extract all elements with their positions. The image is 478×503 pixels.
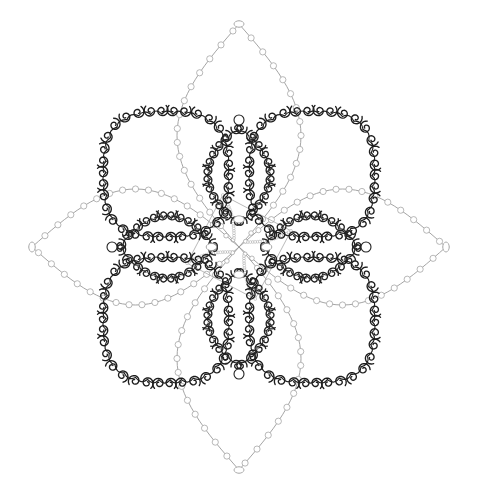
bead-circle bbox=[68, 212, 74, 218]
petal-tip-bead bbox=[234, 467, 244, 473]
bead-circle bbox=[113, 299, 119, 305]
bead-circle bbox=[35, 250, 41, 256]
bead-circle bbox=[174, 139, 180, 145]
bead-circle bbox=[270, 63, 276, 69]
bead-circle bbox=[280, 188, 286, 194]
bead-circle bbox=[314, 297, 320, 303]
bead-circle bbox=[385, 199, 391, 205]
bead-circle bbox=[288, 285, 294, 291]
bead-circle bbox=[232, 227, 235, 230]
bead-circle bbox=[291, 321, 297, 327]
bead-circle bbox=[293, 160, 299, 166]
bead-circle bbox=[411, 217, 417, 223]
bead-circle bbox=[188, 181, 194, 187]
bead-circle bbox=[212, 439, 218, 445]
bead-circle bbox=[423, 227, 429, 233]
bead-circle bbox=[243, 255, 246, 258]
bead-circle bbox=[249, 241, 252, 244]
bead-circle bbox=[280, 77, 286, 83]
bead-circle bbox=[207, 209, 213, 215]
bead-circle bbox=[192, 411, 198, 417]
artwork-canvas bbox=[0, 0, 478, 503]
bead-circle bbox=[270, 202, 276, 208]
bead-circle bbox=[188, 84, 194, 90]
bead-circle bbox=[297, 118, 303, 124]
bead-circle bbox=[275, 293, 281, 299]
inner-petal-base-bead bbox=[206, 243, 216, 250]
bead-circle bbox=[254, 241, 257, 244]
bead-circle bbox=[81, 203, 87, 209]
bead-circle bbox=[184, 203, 190, 209]
bead-circle bbox=[201, 286, 207, 292]
bead-circle bbox=[224, 453, 230, 459]
bead-circle bbox=[398, 207, 404, 213]
bead-circle bbox=[175, 369, 181, 375]
bead-circle bbox=[152, 299, 158, 305]
bead-circle bbox=[339, 302, 345, 308]
bead-circle bbox=[284, 307, 290, 313]
bead-circle bbox=[284, 404, 290, 410]
bead-circle bbox=[352, 301, 358, 307]
petal-tip-bead bbox=[443, 242, 449, 252]
bead-circle bbox=[242, 460, 248, 466]
bead-circle bbox=[254, 446, 260, 452]
canvas-background bbox=[0, 0, 478, 503]
inner-petal-tip-bead bbox=[361, 242, 371, 252]
bead-circle bbox=[359, 188, 365, 194]
bead-circle bbox=[298, 362, 304, 368]
inner-petal-tip-bead bbox=[234, 369, 244, 379]
bead-circle bbox=[230, 28, 236, 34]
bead-circle bbox=[119, 187, 125, 193]
bead-circle bbox=[165, 295, 171, 301]
bead-circle bbox=[275, 276, 281, 282]
bead-circle bbox=[224, 251, 227, 254]
bead-circle bbox=[61, 271, 67, 277]
bead-circle bbox=[42, 233, 48, 239]
bead-circle bbox=[256, 228, 261, 233]
bead-circle bbox=[233, 232, 236, 235]
bead-circle bbox=[177, 153, 183, 159]
bead-circle bbox=[197, 212, 203, 218]
bead-circle bbox=[430, 255, 436, 261]
bead-circle bbox=[217, 261, 222, 266]
inner-petal-base-bead bbox=[261, 243, 271, 250]
bead-circle bbox=[192, 300, 198, 306]
bead-circle bbox=[265, 279, 271, 285]
bead-circle bbox=[275, 418, 281, 424]
bead-circle bbox=[184, 397, 190, 403]
bead-circle bbox=[178, 289, 184, 295]
bead-circle bbox=[132, 186, 138, 192]
petal-tip-bead bbox=[234, 21, 244, 27]
inner-petal-tip-bead bbox=[234, 115, 244, 125]
bead-circle bbox=[219, 251, 222, 254]
bead-circle bbox=[404, 276, 410, 282]
bead-circle bbox=[346, 186, 352, 192]
bead-circle bbox=[265, 432, 271, 438]
bead-circle bbox=[391, 285, 397, 291]
bead-circle bbox=[417, 266, 423, 272]
bead-circle bbox=[181, 167, 187, 173]
bead-circle bbox=[197, 70, 203, 76]
bead-circle bbox=[333, 186, 339, 192]
bead-circle bbox=[291, 390, 297, 396]
bead-circle bbox=[87, 289, 93, 295]
bead-circle bbox=[207, 56, 213, 62]
bead-circle bbox=[281, 207, 287, 213]
bead-circle bbox=[181, 98, 187, 104]
bead-circle bbox=[197, 195, 203, 201]
mandala-svg bbox=[0, 0, 478, 503]
bead-circle bbox=[287, 91, 293, 97]
bead-circle bbox=[259, 240, 262, 243]
bead-circle bbox=[171, 196, 177, 202]
bead-circle bbox=[260, 49, 266, 55]
bead-circle bbox=[307, 193, 313, 199]
bead-circle bbox=[301, 292, 307, 298]
bead-circle bbox=[229, 251, 232, 254]
bead-circle bbox=[55, 222, 61, 228]
bead-circle bbox=[298, 348, 304, 354]
bead-circle bbox=[201, 425, 207, 431]
inner-petal-tip-bead bbox=[107, 242, 117, 252]
bead-circle bbox=[179, 328, 185, 334]
bead-circle bbox=[174, 125, 180, 131]
bead-circle bbox=[243, 259, 246, 262]
